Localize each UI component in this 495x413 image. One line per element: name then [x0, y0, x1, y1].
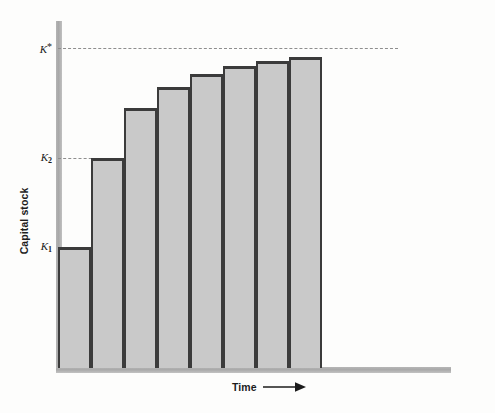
bar-1: [58, 247, 91, 368]
plot-area: [0, 0, 495, 413]
y-axis-title: Capital stock: [18, 171, 30, 271]
bar-5: [190, 74, 223, 368]
x-axis-title: Time: [232, 381, 307, 393]
chart-figure: K* K2 K1 Capital stock Time: [0, 0, 495, 413]
x-axis-title-label: Time: [232, 381, 257, 393]
bar-3: [124, 108, 157, 368]
right-arrow-icon: [263, 381, 307, 393]
bar-2: [91, 158, 124, 368]
bar-4: [157, 87, 190, 368]
bar-6: [223, 66, 256, 368]
bar-7: [256, 61, 289, 368]
bar-8: [289, 57, 322, 368]
